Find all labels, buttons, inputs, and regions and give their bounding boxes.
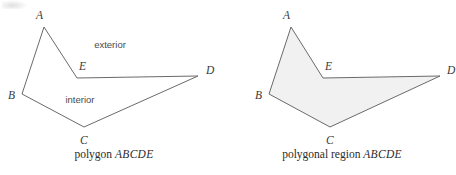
geometry-figure: A B C D E exterior interior polygon ABCD… bbox=[0, 0, 456, 175]
caption-polygon: polygon ABCDE bbox=[0, 148, 228, 160]
vertex-label-c: C bbox=[80, 134, 88, 146]
polygonal-region-shape-abcde bbox=[269, 27, 440, 127]
vertex-label-e: E bbox=[78, 60, 86, 72]
vertex-label-b: B bbox=[8, 89, 15, 101]
caption-region-prefix: polygonal region bbox=[282, 148, 363, 160]
panel-polygonal-region: A B C D E polygonal region ABCDE bbox=[228, 0, 456, 175]
region-label-interior: interior bbox=[65, 94, 94, 105]
caption-region-name: ABCDE bbox=[363, 148, 402, 160]
vertex-label-a: A bbox=[282, 9, 291, 21]
vertex-label-d: D bbox=[446, 64, 456, 76]
vertex-label-e: E bbox=[324, 60, 332, 72]
vertex-label-a: A bbox=[35, 9, 44, 21]
caption-polygon-prefix: polygon bbox=[74, 148, 115, 160]
vertex-label-b: B bbox=[255, 89, 262, 101]
region-label-exterior: exterior bbox=[94, 39, 126, 50]
caption-polygon-name: ABCDE bbox=[115, 148, 154, 160]
vertex-label-c: C bbox=[326, 134, 334, 146]
vertex-label-d: D bbox=[205, 64, 215, 76]
panel-polygon-outline: A B C D E exterior interior polygon ABCD… bbox=[0, 0, 228, 175]
caption-polygonal-region: polygonal region ABCDE bbox=[228, 148, 456, 160]
